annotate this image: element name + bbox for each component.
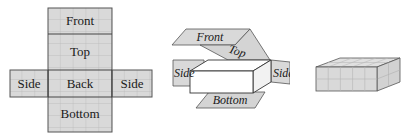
fold-label-front: Front [196,30,225,44]
net-label-front: Front [66,13,95,28]
fold-label-side-right: Side [273,66,290,80]
net-label-back: Back [67,76,94,91]
net-label-top: Top [70,44,90,59]
net-label-side-left: Side [17,76,40,91]
net-label-bottom: Bottom [60,106,99,121]
folding-box-figure: Front Top Side Side Bottom [160,0,290,137]
box-net-drawing: Front Top Back Bottom Side Side [0,0,160,137]
fold-label-bottom: Bottom [213,93,248,107]
net-label-side-right: Side [120,76,143,91]
closed-box-figure [290,0,410,137]
folding-box-drawing: Front Top Side Side Bottom [160,0,290,137]
box-front-face [190,71,253,93]
closed-box-drawing [290,0,410,137]
box-net-figure: Front Top Back Bottom Side Side [0,0,160,137]
fold-label-side-left: Side [174,66,195,80]
